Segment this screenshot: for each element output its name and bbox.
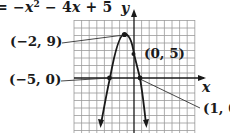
graph (0, 0, 230, 138)
point-label-y-intercept: (0, 5) (144, 45, 185, 61)
right-arrowhead-icon (143, 119, 149, 128)
vertex-point (122, 32, 127, 37)
x-intercept-left-point (107, 76, 112, 81)
y-intercept-point (132, 52, 136, 56)
point-label-x-intercept-left: (−5, 0) (9, 71, 61, 87)
point-label-x-intercept-right: (1, 0) (203, 100, 230, 116)
left-arrowhead-icon (98, 119, 104, 128)
x-axis-label: x (202, 79, 210, 95)
y-axis-arrow-icon (131, 9, 137, 17)
point-label-vertex: (−2, 9) (10, 33, 62, 49)
x-intercept-right-point (138, 76, 143, 81)
y-axis-label: y (121, 0, 129, 16)
